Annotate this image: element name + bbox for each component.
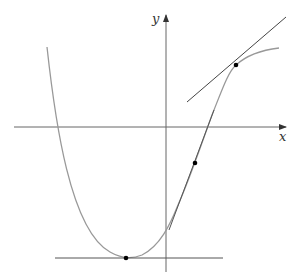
point-upper [234, 63, 239, 68]
diagram-canvas: x y [0, 0, 301, 280]
function-curve [47, 47, 279, 258]
point-minimum [124, 256, 129, 261]
x-axis-label: x [279, 129, 287, 144]
tangent-line-upper [187, 17, 286, 102]
point-mid [193, 161, 198, 166]
tangent-line-mid [169, 110, 214, 230]
y-axis-label: y [151, 11, 160, 26]
